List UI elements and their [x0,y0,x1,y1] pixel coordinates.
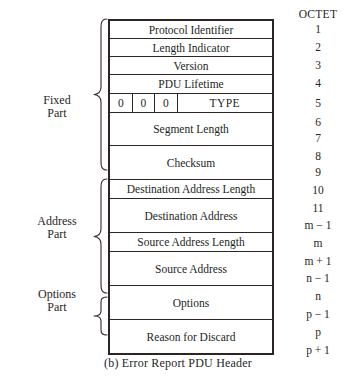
pdu-field-label: Length Indicator [153,42,230,54]
pdu-field-label: Destination Address Length [127,183,255,195]
pdu-field-label: Destination Address [145,210,238,222]
pdu-field-label: Protocol Identifier [149,24,234,36]
octet-value: n − 1 [283,272,353,284]
pdu-field-label: TYPE [178,94,273,112]
pdu-field-label: Checksum [167,157,216,169]
brace-address-part [90,177,110,295]
octet-value: 6 [283,116,353,128]
pdu-flag-bit-1: 0 [133,94,156,112]
pdu-field-pdu-lifetime: PDU Lifetime [110,75,272,94]
octet-value: p − 1 [283,308,353,320]
pdu-field-label: Options [173,297,209,309]
pdu-field-protocol-identifier: Protocol Identifier [110,21,272,39]
pdu-field-flags-type: 0 0 0 TYPE [110,94,272,113]
octet-value: 1 [283,23,353,35]
pdu-field-source-address-length: Source Address Length [110,233,272,252]
octet-value: n [283,290,353,302]
pdu-field-label: PDU Lifetime [158,78,223,90]
pdu-flag-bit-2: 0 [155,94,178,112]
section-label-address: Address Part [14,215,100,241]
octet-value: 10 [283,184,353,196]
pdu-field-label: Reason for Discard [147,331,236,343]
brace-options-part [90,295,110,337]
octet-column: 1 2 3 4 5 6 7 8 9 10 11 m − 1 m m + 1 n … [283,19,353,349]
octet-value: m − 1 [283,219,353,231]
pdu-field-segment-length: Segment Length [110,113,272,146]
octet-value: 5 [283,97,353,109]
octet-value: 3 [283,59,353,71]
octet-value: m [283,237,353,249]
pdu-field-length-indicator: Length Indicator [110,39,272,57]
error-report-pdu-header-figure: OCTET 1 2 3 4 5 6 7 8 9 10 11 m − 1 m m … [0,0,356,383]
section-label-options: Options Part [14,288,100,314]
pdu-field-label: Source Address [155,263,227,275]
brace-fixed-part [90,17,110,172]
figure-caption: (b) Error Report PDU Header [0,356,356,371]
section-label-fixed: Fixed Part [14,94,100,120]
pdu-field-label: Source Address Length [137,236,244,248]
pdu-field-version: Version [110,57,272,75]
pdu-field-label: Segment Length [153,123,229,135]
pdu-field-source-address: Source Address [110,252,272,286]
octet-value: 2 [283,41,353,53]
section-label-address-line2: Part [14,228,100,241]
pdu-flag-bit-0: 0 [110,94,133,112]
pdu-field-label: Version [173,60,208,72]
pdu-field-destination-address-length: Destination Address Length [110,180,272,199]
pdu-field-reason-for-discard: Reason for Discard [110,320,272,353]
pdu-field-options: Options [110,286,272,320]
octet-value: p + 1 [283,344,353,356]
octet-value: 7 [283,132,353,144]
octet-value: p [283,326,353,338]
octet-value: 11 [283,202,353,214]
octet-value: 4 [283,77,353,89]
octet-value: 8 [283,150,353,162]
pdu-header-box: Protocol Identifier Length Indicator Ver… [108,19,274,355]
section-label-options-line2: Part [14,301,100,314]
pdu-field-checksum: Checksum [110,146,272,180]
section-label-fixed-line2: Part [14,107,100,120]
octet-value: 9 [283,166,353,178]
octet-value: m + 1 [283,255,353,267]
pdu-field-destination-address: Destination Address [110,199,272,233]
